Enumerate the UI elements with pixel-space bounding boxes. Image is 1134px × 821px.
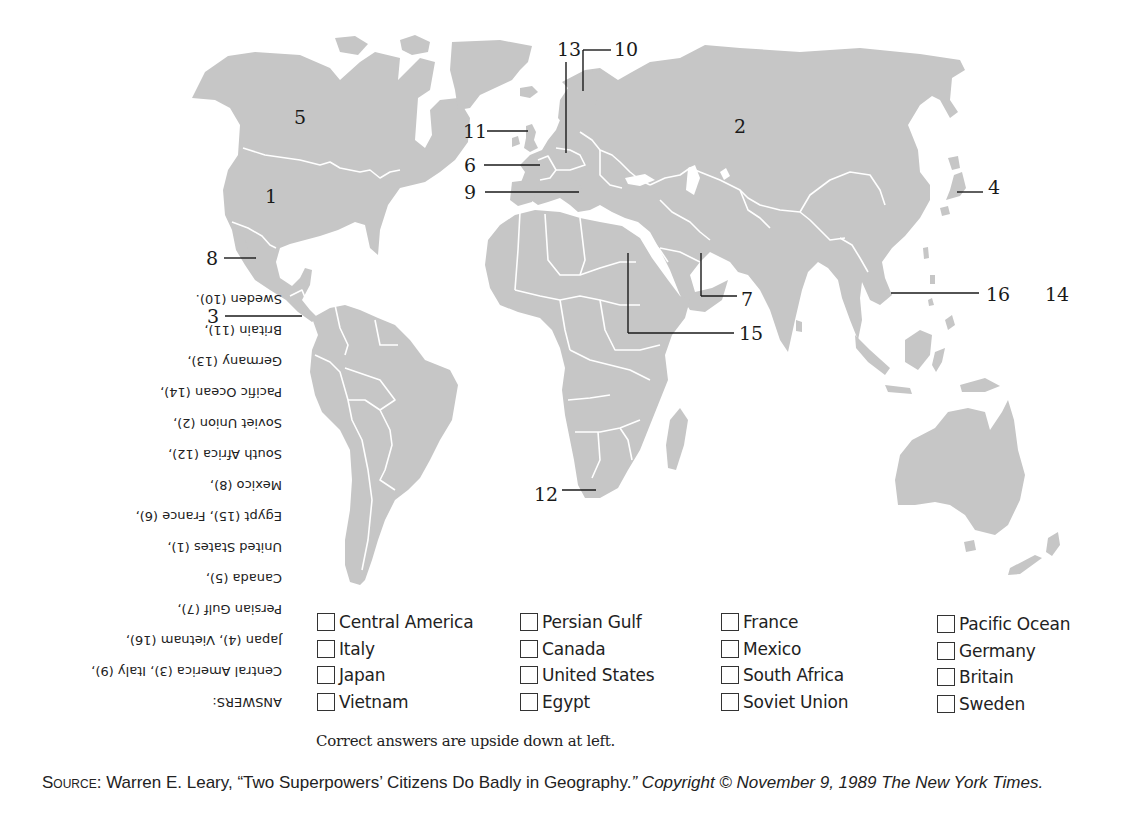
checkbox[interactable] (937, 695, 955, 713)
map-label-4: 4 (988, 178, 1000, 197)
map-label-13: 13 (557, 40, 581, 59)
choice-central-america[interactable]: Central America (317, 609, 473, 636)
answer-line: Canada (5), (206, 571, 282, 586)
answer-line: Japan (4), Vietnam (16), (126, 633, 282, 648)
choice-egypt[interactable]: Egypt (520, 689, 655, 716)
checkbox[interactable] (721, 666, 739, 684)
south-america-landmass (310, 305, 458, 585)
madagascar (666, 408, 688, 470)
answer-line: Sweden (10). (196, 292, 282, 307)
checkbox[interactable] (520, 693, 538, 711)
southeast-asia-islands (855, 298, 1000, 394)
upside-down-answers: ANSWERS: Central America (3), Italy (9),… (62, 260, 282, 720)
map-label-6: 6 (464, 156, 476, 175)
choice-label: Canada (542, 639, 606, 659)
choice-united-states[interactable]: United States (520, 662, 655, 689)
checkbox[interactable] (520, 613, 538, 631)
ireland (512, 136, 520, 147)
map-label-15: 15 (739, 324, 763, 343)
choice-label: Soviet Union (743, 692, 848, 712)
checkbox[interactable] (937, 668, 955, 686)
checkbox[interactable] (721, 640, 739, 658)
checkbox[interactable] (937, 615, 955, 633)
source-label: Source: (42, 773, 101, 792)
choice-mexico[interactable]: Mexico (721, 636, 848, 663)
answer-line: Britain (11), (204, 323, 282, 338)
answer-note: Correct answers are upside down at left. (316, 732, 615, 750)
map-label-9: 9 (464, 183, 476, 202)
choice-label: Central America (339, 612, 473, 632)
choice-vietnam[interactable]: Vietnam (317, 689, 473, 716)
choice-label: Germany (959, 641, 1036, 661)
choice-italy[interactable]: Italy (317, 636, 473, 663)
checkbox[interactable] (721, 693, 739, 711)
choice-france[interactable]: France (721, 609, 848, 636)
choice-label: South Africa (743, 665, 844, 685)
choices-column-3: France Mexico South Africa Soviet Union (721, 609, 848, 715)
choice-label: Japan (339, 665, 385, 685)
choice-label: Egypt (542, 692, 590, 712)
map-label-16: 16 (986, 285, 1010, 304)
choice-label: United States (542, 665, 655, 685)
answer-line: United States (1), (167, 540, 282, 555)
new-zealand (1046, 532, 1060, 556)
choice-britain[interactable]: Britain (937, 664, 1070, 691)
map-label-2: 2 (734, 117, 746, 136)
africa-landmass (485, 210, 690, 498)
choice-label: Mexico (743, 639, 801, 659)
answer-line: Persian Gulf (7), (177, 602, 282, 617)
source-copyright: ” Copyright © November 9, 1989 The New Y… (631, 773, 1043, 792)
checkbox[interactable] (721, 613, 739, 631)
choices-column-2: Persian Gulf Canada United States Egypt (520, 609, 655, 715)
choice-label: France (743, 612, 798, 632)
answer-line: Germany (13), (187, 354, 282, 369)
choice-label: Italy (339, 639, 375, 659)
greenland (450, 40, 532, 110)
choice-label: Sweden (959, 694, 1025, 714)
checkbox[interactable] (520, 640, 538, 658)
choice-sweden[interactable]: Sweden (937, 691, 1070, 718)
choice-canada[interactable]: Canada (520, 636, 655, 663)
choice-japan[interactable]: Japan (317, 662, 473, 689)
map-label-10: 10 (614, 40, 638, 59)
source-text: Warren E. Leary, “Two Superpowers’ Citiz… (101, 773, 631, 792)
choice-germany[interactable]: Germany (937, 638, 1070, 665)
japan-islands (923, 156, 966, 284)
checkbox[interactable] (520, 666, 538, 684)
britain (524, 124, 538, 152)
map-label-1: 1 (265, 187, 277, 206)
choices-column-1: Central America Italy Japan Vietnam (317, 609, 473, 715)
choice-south-africa[interactable]: South Africa (721, 662, 848, 689)
checkbox[interactable] (937, 642, 955, 660)
iceland (520, 86, 538, 98)
checkbox[interactable] (317, 613, 335, 631)
choice-label: Britain (959, 667, 1014, 687)
answers-heading: ANSWERS: (212, 695, 282, 710)
choice-soviet-union[interactable]: Soviet Union (721, 689, 848, 716)
answer-line: Soviet Union (2), (173, 416, 282, 431)
choice-label: Pacific Ocean (959, 614, 1070, 634)
choice-label: Vietnam (339, 692, 408, 712)
checkbox[interactable] (317, 666, 335, 684)
australia-landmass (895, 400, 1060, 575)
answer-line: Pacific Ocean (14), (160, 385, 282, 400)
answer-line: Egypt (15), France (6), (136, 509, 283, 524)
choice-label: Persian Gulf (542, 612, 642, 632)
answer-line: South Africa (12), (168, 447, 282, 462)
answer-line: Central America (3), Italy (9), (91, 664, 282, 679)
map-label-7: 7 (741, 290, 753, 309)
checkbox[interactable] (317, 693, 335, 711)
checkbox[interactable] (317, 640, 335, 658)
choice-persian-gulf[interactable]: Persian Gulf (520, 609, 655, 636)
choices-column-4: Pacific Ocean Germany Britain Sweden (937, 611, 1070, 717)
map-label-5: 5 (294, 108, 306, 127)
source-citation: Source: Warren E. Leary, “Two Superpower… (42, 771, 1102, 794)
map-label-12: 12 (534, 485, 558, 504)
map-label-14: 14 (1045, 285, 1069, 304)
map-label-11: 11 (463, 122, 487, 141)
choice-pacific-ocean[interactable]: Pacific Ocean (937, 611, 1070, 638)
answer-line: Mexico (8), (210, 478, 282, 493)
